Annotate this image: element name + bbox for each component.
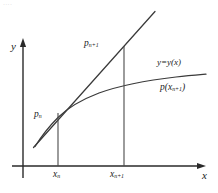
label-p-of-x-close: ): [182, 82, 185, 92]
y-axis-label: y: [11, 41, 16, 52]
euler-method-figure: ···· y x pn+1 pn y=y: [0, 0, 218, 193]
figure-canvas: [0, 0, 218, 193]
tick-label-xn1: xn+1: [110, 170, 124, 180]
tangent-line: [34, 12, 156, 148]
label-p-n-plus-1-sub: n+1: [89, 42, 99, 48]
y-axis: [20, 38, 26, 178]
label-p-of-x-base: p(x: [160, 82, 172, 92]
label-p-n: pn: [34, 110, 42, 120]
x-axis: [12, 163, 206, 169]
label-p-of-x-sub: n+1: [172, 86, 182, 92]
label-p-n-sub: n: [39, 113, 42, 119]
x-axis-label: x: [202, 170, 207, 181]
label-p-of-x-n-plus-1: p(xn+1): [160, 83, 185, 93]
tick-label-xn: xn: [53, 170, 60, 180]
label-p-n-plus-1: pn+1: [84, 39, 99, 49]
label-solution-curve: y=y(x): [157, 58, 181, 67]
tick-label-xn1-sub: n+1: [114, 173, 124, 179]
tick-label-xn-sub: n: [57, 173, 60, 179]
